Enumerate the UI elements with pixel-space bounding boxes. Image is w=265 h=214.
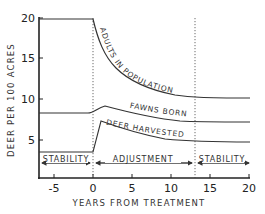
y-tick-5: 5 — [28, 134, 35, 147]
phase-adjustment: ADJUSTMENT — [113, 155, 174, 164]
y-tick-20: 20 — [21, 12, 35, 25]
x-tick-15: 15 — [203, 182, 217, 195]
harvested-label: DEER HARVESTED — [105, 118, 185, 140]
x-tick--5: -5 — [49, 182, 60, 195]
phase-stability-after: STABILITY — [199, 155, 245, 164]
x-tick-10: 10 — [164, 182, 178, 195]
y-axis-title: DEER PER 100 ACRES — [6, 43, 16, 157]
fawns-label: FAWNS BORN — [129, 101, 188, 119]
x-ticks: -5 0 5 10 15 20 — [49, 174, 256, 195]
x-tick-5: 5 — [129, 182, 136, 195]
x-axis-title: YEARS FROM TREATMENT — [72, 198, 206, 208]
x-tick-0: 0 — [90, 182, 97, 195]
x-tick-20: 20 — [242, 182, 256, 195]
y-tick-10: 10 — [21, 93, 35, 106]
deer-population-chart: 20 15 10 5 -5 0 5 10 15 20 YEARS FROM TR… — [0, 0, 265, 214]
phase-annotations: STABILITY ADJUSTMENT STABILITY — [42, 154, 249, 164]
phase-stability-before: STABILITY — [43, 155, 89, 164]
y-tick-15: 15 — [21, 52, 35, 65]
